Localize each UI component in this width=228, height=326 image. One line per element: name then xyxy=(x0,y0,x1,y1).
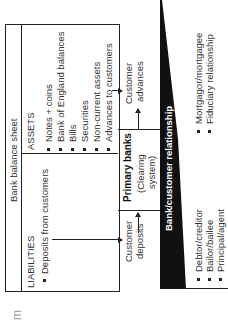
bullet xyxy=(43,279,46,282)
primary-banks-label: Primary banks xyxy=(122,133,133,202)
customer-advances-line-1: Customer xyxy=(123,63,134,104)
deposits-to-banks-arrow xyxy=(138,213,139,233)
customer-advances-line-2: advances xyxy=(134,61,145,102)
liability-item: Deposits from customers xyxy=(39,169,50,274)
bullet xyxy=(59,148,62,151)
asset-item: Securities xyxy=(79,100,90,142)
relationship-title: Bank/customer relationship xyxy=(163,106,174,231)
bullet xyxy=(95,148,98,151)
bullet xyxy=(197,278,200,281)
bullet xyxy=(219,278,222,281)
rotated-diagram: Bank balance sheet LIABILITIES Deposits … xyxy=(0,0,228,326)
asset-item: Non-current assets xyxy=(91,62,102,142)
bullet xyxy=(83,148,86,151)
diagram-stage: Bank balance sheet LIABILITIES Deposits … xyxy=(0,0,228,326)
relationship-right-item: Fiduciary relationship xyxy=(204,34,215,124)
clearing-system-line-1: (Clearing xyxy=(135,154,146,193)
bullet xyxy=(47,148,50,151)
balance-sheet-title: Bank balance sheet xyxy=(8,119,19,202)
asset-item: Notes + coins xyxy=(43,84,54,142)
bullet xyxy=(197,130,200,133)
title-divider xyxy=(21,25,22,292)
asset-item: Bills xyxy=(67,125,78,142)
asset-item: Advances to customers xyxy=(103,43,114,142)
corner-mark: m xyxy=(12,310,23,320)
relationship-left-item: Principal/agent xyxy=(215,209,226,272)
customer-deposits-line-2: deposits xyxy=(134,224,145,259)
bullet xyxy=(107,148,110,151)
assets-header: ASSETS xyxy=(25,113,36,151)
banks-to-advances-arrow xyxy=(138,109,139,129)
customer-deposits-line-1: Customer xyxy=(123,221,134,262)
bullet xyxy=(208,130,211,133)
relationship-left-item: Bailor/bailee xyxy=(204,220,215,272)
bullet xyxy=(208,278,211,281)
deposits-arrow-stem xyxy=(52,239,118,240)
column-divider xyxy=(21,153,118,154)
bullet xyxy=(71,148,74,151)
relationship-left-item: Debtor/creditor xyxy=(193,209,204,272)
relationship-right-item: Mortgagor/mortgagee xyxy=(193,33,204,124)
asset-item: Bank of England balances xyxy=(55,32,66,142)
clearing-system-line-2: system) xyxy=(146,156,157,189)
liabilities-header: LIABILITIES xyxy=(25,236,36,288)
